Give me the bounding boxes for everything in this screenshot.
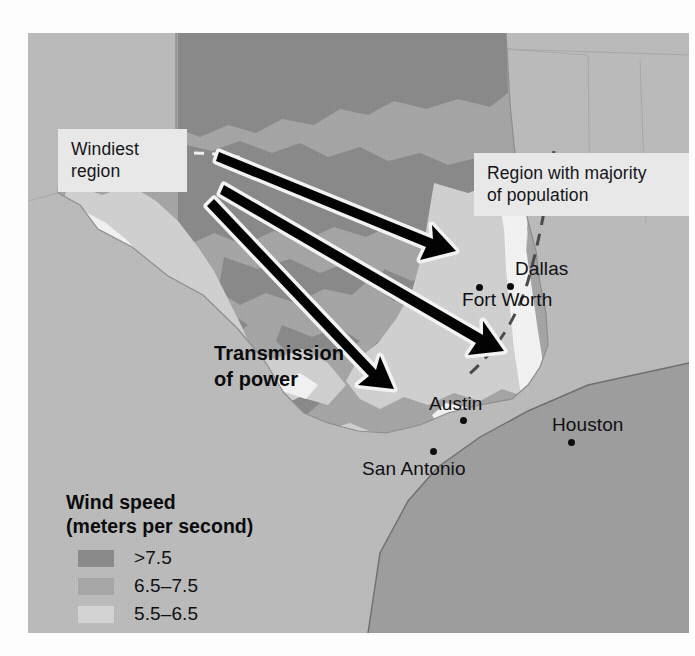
legend-swatch-5-5-to-6-5 (78, 606, 114, 623)
legend-label-gt-7-5: >7.5 (134, 547, 172, 569)
city-label-dallas: Dallas (515, 258, 568, 280)
wind-speed-map-figure: Windiest region Region with majority of … (0, 0, 695, 656)
legend-label-5-5-to-6-5: 5.5–6.5 (134, 603, 198, 625)
map-plate: Windiest region Region with majority of … (28, 33, 689, 633)
legend-label-6-5-to-7-5: 6.5–7.5 (134, 575, 198, 597)
city-label-austin: Austin (429, 393, 482, 415)
label-transmission-of-power: Transmission of power (214, 341, 344, 392)
legend-swatch-6-5-to-7-5 (78, 578, 114, 595)
city-label-houston: Houston (552, 414, 623, 436)
legend-item-6-5-to-7-5: 6.5–7.5 (66, 573, 290, 599)
city-dot-san-antonio (430, 448, 437, 455)
city-dot-austin (460, 417, 467, 424)
legend-swatch-gt-7-5 (78, 550, 114, 567)
wind-speed-legend: Wind speed (meters per second) >7.5 6.5–… (66, 490, 290, 633)
legend-item-lt-5-5: <5.5 (66, 629, 290, 633)
legend-item-5-5-to-6-5: 5.5–6.5 (66, 601, 290, 627)
city-dot-houston (568, 439, 575, 446)
legend-label-lt-5-5: <5.5 (134, 631, 172, 633)
city-label-san-antonio: San Antonio (362, 458, 466, 480)
legend-item-gt-7-5: >7.5 (66, 545, 290, 571)
legend-title: Wind speed (meters per second) (66, 490, 290, 538)
callout-windiest-region: Windiest region (58, 129, 187, 192)
city-label-fort-worth: Fort Worth (462, 289, 552, 311)
callout-population-region: Region with majority of population (474, 153, 689, 216)
